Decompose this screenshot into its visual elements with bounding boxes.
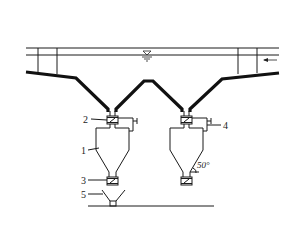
left-hopper [96, 111, 137, 185]
channel-bed-center-ridge [116, 81, 182, 112]
bypass-pipe-left [118, 118, 133, 131]
label-3: 3 [81, 175, 86, 186]
lower-valve-icon [181, 177, 192, 185]
leader-2 [91, 119, 107, 120]
bypass-pipe-right [192, 118, 207, 131]
right-hopper [170, 111, 211, 185]
label-2: 2 [83, 114, 88, 125]
label-1: 1 [81, 145, 86, 156]
leader-1 [88, 148, 99, 150]
upper-valve-icon [181, 116, 192, 124]
lower-valve-icon [107, 177, 118, 185]
channel-bed-left [26, 72, 108, 112]
diagram-canvas: 2 1 3 5 4 50° [0, 0, 303, 226]
angle-label: 50° [197, 160, 210, 170]
discharge-funnel [102, 190, 125, 206]
label-5: 5 [81, 189, 86, 200]
flow-arrow-icon [263, 58, 277, 62]
upper-valve-icon [107, 116, 118, 124]
channel-bed-right [190, 73, 279, 112]
label-4: 4 [223, 120, 228, 131]
water-level-icon [142, 51, 152, 61]
